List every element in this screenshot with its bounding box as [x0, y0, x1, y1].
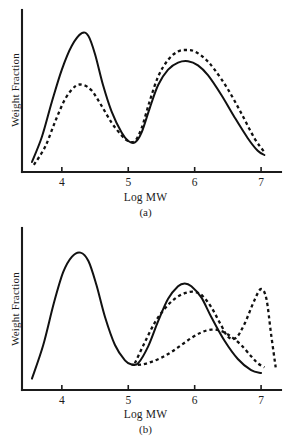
curve-solid-curve — [32, 252, 261, 378]
chart-a-y-axis-title: Weight Fraction — [9, 53, 21, 127]
chart-b-plot: 4567 — [0, 218, 291, 408]
x-axis-tick-label: 5 — [125, 394, 131, 406]
x-axis-tick-label: 5 — [125, 176, 131, 188]
figure-container: 4567 Weight Fraction Log MW (a) 4567 Wei… — [0, 0, 291, 438]
x-axis-tick-label: 7 — [258, 394, 264, 406]
x-axis-tick-label: 7 — [258, 176, 264, 188]
chart-panel-b: 4567 Weight Fraction Log MW (b) — [0, 218, 291, 438]
chart-b-x-axis-title: Log MW — [0, 408, 291, 420]
chart-a-x-axis-title: Log MW — [0, 191, 291, 203]
chart-a-plot: 4567 — [0, 0, 291, 190]
chart-a-subfigure-label: (a) — [0, 206, 291, 218]
chart-panel-a: 4567 Weight Fraction Log MW (a) — [0, 0, 291, 220]
chart-b-y-axis-title: Weight Fraction — [9, 272, 21, 346]
curve-dashed-curve-lower — [132, 330, 265, 368]
x-axis-tick-label: 6 — [192, 394, 198, 406]
chart-b-subfigure-label: (b) — [0, 423, 291, 435]
x-axis-tick-label: 4 — [59, 394, 65, 406]
x-axis-tick-label: 6 — [192, 176, 198, 188]
x-axis-tick-label: 4 — [59, 176, 65, 188]
